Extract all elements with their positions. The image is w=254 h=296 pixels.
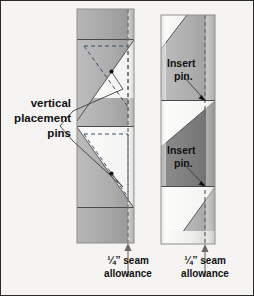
left-top-band [77,9,134,39]
callout-line-2: placement [14,112,71,124]
right-seam-label-line-1: ¼ˮ seam [184,255,226,266]
left-seam-label-line-2: allowance [104,268,152,279]
left-middle-fill [77,98,134,126]
pin-head-upper [109,69,113,73]
right-strip-group [161,15,215,244]
callout-line-3: pins [47,127,71,139]
insert-pin-bottom-line-2: pin. [174,157,193,169]
right-edge-highlight [206,15,215,244]
callout-line-1: vertical [31,97,71,109]
right-seam-label-line-2: allowance [181,268,229,279]
insert-pin-top-line-1: Insert [167,57,196,69]
left-bottom-band [77,208,134,243]
right-left-edge [161,15,166,244]
quilt-diagram: vertical placement pins ¼ˮ seam allowanc… [1,1,254,296]
left-seam-label-line-1: ¼ˮ seam [107,255,149,266]
figure-container: vertical placement pins ¼ˮ seam allowanc… [0,0,254,296]
insert-pin-bottom-line-1: Insert [167,144,196,156]
insert-pin-top-line-2: pin. [174,70,193,82]
